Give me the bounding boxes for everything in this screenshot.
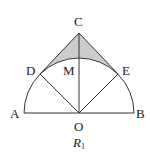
label-c: C (74, 14, 83, 29)
segment-od (40, 74, 79, 113)
caption: R1 (72, 135, 85, 151)
label-m: M (63, 63, 75, 78)
label-d: D (26, 63, 35, 78)
caption-subscript: 1 (81, 142, 85, 151)
segment-oe (79, 74, 118, 113)
label-a: A (10, 106, 20, 121)
label-o: O (74, 119, 83, 134)
label-e: E (122, 63, 130, 78)
geometry-diagram: C D E M A B O R1 (0, 0, 150, 152)
label-b: B (136, 106, 145, 121)
caption-main: R (72, 135, 81, 150)
